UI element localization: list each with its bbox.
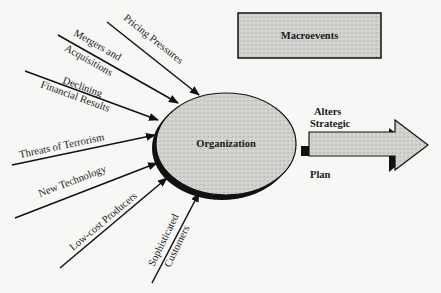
strategic-label: Strategic xyxy=(310,118,351,129)
organization-label: Organization xyxy=(196,138,256,149)
force-label: Pricing Pressures xyxy=(122,12,186,66)
force-label: Low-cost Producers xyxy=(67,190,139,253)
alters-label: Alters xyxy=(314,106,341,117)
strategic-plan-arrow: Alters Strategic Plan xyxy=(301,106,428,180)
diagram-svg: Macroevents Organization Alters Strategi… xyxy=(0,0,441,293)
force-sophisticated-customers: Sophisticated Customers xyxy=(146,193,199,283)
force-label: Threats of Terrorism xyxy=(18,131,105,160)
macroevents-box: Macroevents xyxy=(238,13,381,58)
force-label: New Technology xyxy=(37,163,109,199)
diagram-canvas: Macroevents Organization Alters Strategi… xyxy=(0,0,441,293)
organization-node: Organization xyxy=(152,93,296,200)
force-threats-of-terrorism: Threats of Terrorism xyxy=(12,131,155,165)
force-declining-financial-results: Declining Financial Results xyxy=(25,71,158,120)
plan-label: Plan xyxy=(310,169,331,180)
force-new-technology: New Technology xyxy=(15,163,157,218)
macroevents-label: Macroevents xyxy=(281,30,339,41)
